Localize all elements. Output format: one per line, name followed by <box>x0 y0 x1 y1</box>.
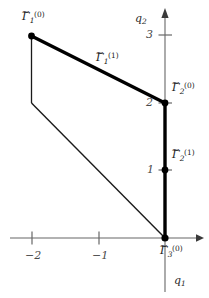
label-gamma-2-0: ∼Γ2(0) <box>172 82 195 95</box>
x-axis-label-sub: 1 <box>181 279 186 288</box>
vertex-dot-gamma-2-1-point <box>162 167 169 174</box>
label-gamma-1-0: ∼Γ1(0) <box>22 11 45 24</box>
gamma-superscript: (1) <box>184 148 195 157</box>
gamma-symbol: ∼Γ <box>96 52 104 63</box>
tick-marks <box>32 35 172 245</box>
x-tick-label-minus2: −2 <box>25 250 41 261</box>
gamma-symbol: ∼Γ <box>172 149 180 160</box>
gamma-superscript: (1) <box>108 51 119 60</box>
label-gamma-2-1: ∼Γ2(1) <box>172 149 195 162</box>
right-arrow-icon <box>196 234 204 242</box>
gamma-superscript: (0) <box>172 244 183 253</box>
x-tick-label-minus1: −1 <box>92 250 108 261</box>
y-tick-label-1: 1 <box>147 164 154 175</box>
vertex-dot-gamma-2-0 <box>162 100 169 107</box>
newton-polygon-figure: −2 −1 3 2 1 q2 q1 ∼Γ1(0) ∼Γ1(1) ∼Γ2(0) ∼… <box>0 0 209 298</box>
tilde-accent-icon: ∼ <box>159 240 168 250</box>
axis-arrowheads <box>161 8 204 242</box>
tilde-accent-icon: ∼ <box>21 6 30 16</box>
tilde-accent-icon: ∼ <box>171 144 180 154</box>
y-axis-label-var: q <box>135 12 142 25</box>
bold-edges <box>32 36 166 238</box>
gamma-superscript: (0) <box>34 10 45 19</box>
label-gamma-3-0: ∼Γ3(0) <box>160 245 183 258</box>
thin-edge-lower-diagonal <box>32 103 166 238</box>
y-tick-label-2: 2 <box>146 97 153 108</box>
y-axis-label-sub: 2 <box>142 17 147 26</box>
gamma-superscript: (0) <box>184 81 195 90</box>
x-axis-label-var: q <box>174 274 181 287</box>
y-axis-label: q2 <box>135 13 147 26</box>
x-axis-label: q1 <box>174 275 186 288</box>
up-arrow-icon <box>161 8 168 18</box>
gamma-symbol: ∼Γ <box>22 11 30 22</box>
y-tick-label-3: 3 <box>146 29 153 40</box>
thin-edges <box>32 36 166 238</box>
gamma-symbol: ∼Γ <box>160 245 168 256</box>
vertex-dot-gamma-1-0 <box>28 33 35 40</box>
tilde-accent-icon: ∼ <box>95 47 104 57</box>
gamma-symbol: ∼Γ <box>172 82 180 93</box>
label-gamma-1-1: ∼Γ1(1) <box>96 52 119 65</box>
tilde-accent-icon: ∼ <box>171 77 180 87</box>
